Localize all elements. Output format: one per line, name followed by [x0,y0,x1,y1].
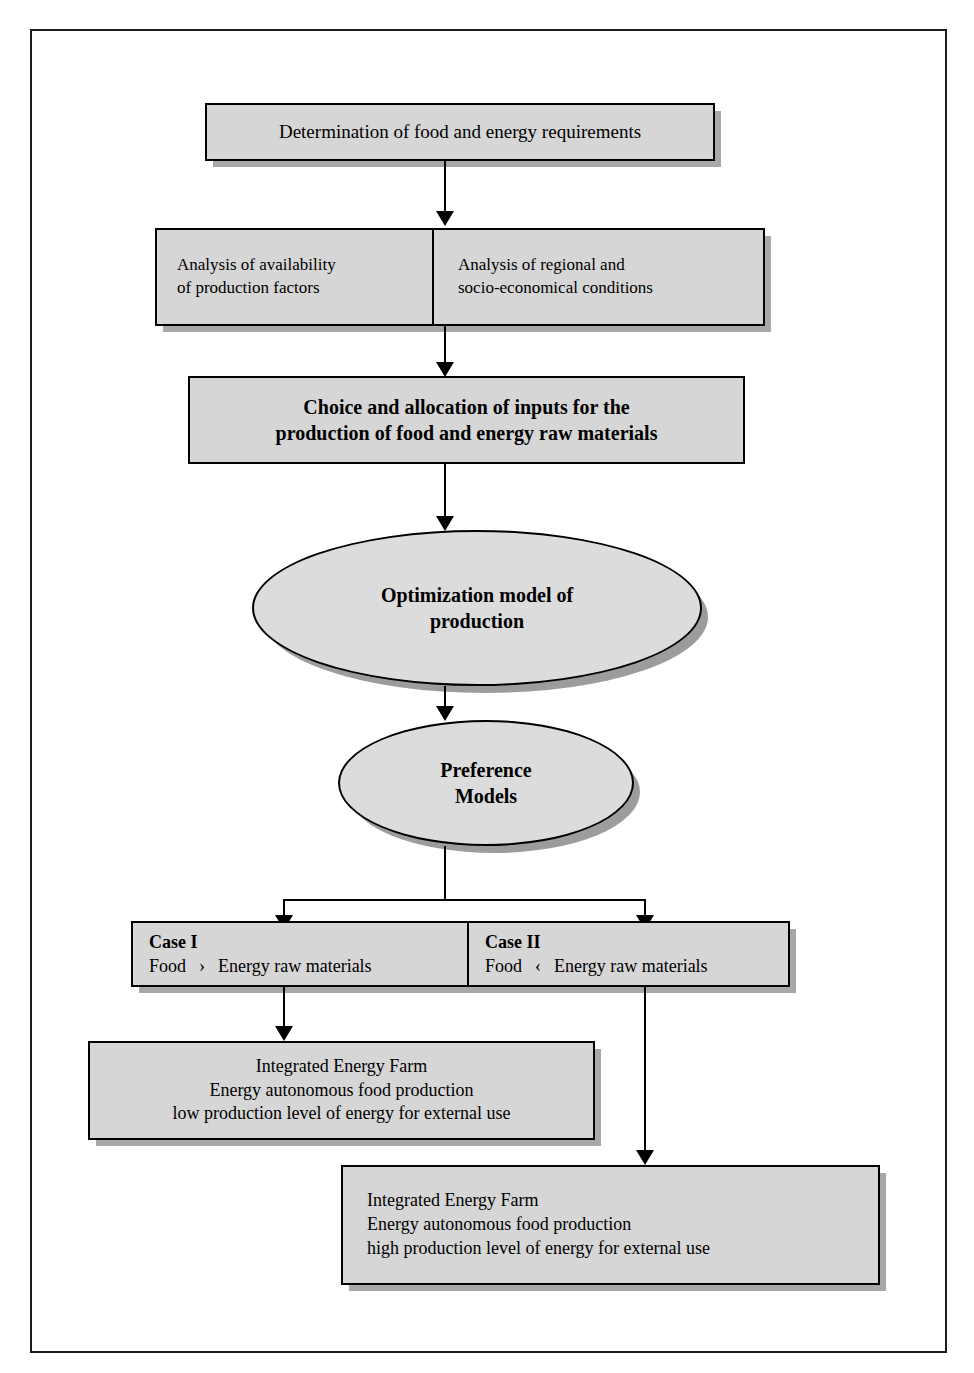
connector-preference-stem [444,846,446,900]
connector-preference-branch-bar [283,899,646,901]
farm-low-line-2: Energy autonomous food production [112,1079,571,1103]
arrowhead-to-farm-high-icon [636,1150,654,1165]
analysis-regional-line-1: Analysis of regional and [458,254,763,277]
arrowhead-to-farm-low-icon [275,1026,293,1041]
node-analysis-regional-conditions: Analysis of regional and socio-economica… [432,230,763,324]
node-farm-high: Integrated Energy Farm Energy autonomous… [341,1165,880,1285]
node-analysis-split-row: Analysis of availability of production f… [155,228,765,326]
node-preference-models: Preference Models [338,720,634,846]
preference-models-line-1: Preference [440,757,531,783]
case-two-operator-icon: ‹ [535,956,541,976]
preference-models-line-2: Models [455,783,517,809]
connector-case-two-to-farm-high [644,987,646,1162]
node-case-split-row: Case I Food›Energy raw materials Case II… [131,921,790,987]
analysis-regional-line-2: socio-economical conditions [458,277,763,300]
node-farm-low: Integrated Energy Farm Energy autonomous… [88,1041,595,1140]
case-one-operator-icon: › [199,956,205,976]
connector-choice-to-optimization [444,464,446,524]
case-two-heading: Case II [485,930,788,954]
case-two-left-term: Food [485,956,522,976]
analysis-factors-line-2: of production factors [177,277,432,300]
arrowhead-to-optimization-icon [436,516,454,531]
case-one-heading: Case I [149,930,467,954]
node-requirements-label: Determination of food and energy require… [229,119,691,144]
choice-allocation-line-1: Choice and allocation of inputs for the [212,394,721,420]
case-one-relation: Food›Energy raw materials [149,954,467,978]
diagram-canvas: Determination of food and energy require… [0,0,974,1373]
node-choice-allocation: Choice and allocation of inputs for the … [188,376,745,464]
choice-allocation-line-2: production of food and energy raw materi… [212,420,721,446]
optimization-model-line-1: Optimization model of [381,582,573,608]
analysis-factors-line-1: Analysis of availability [177,254,432,277]
arrowhead-to-preference-icon [436,706,454,721]
arrowhead-to-choice-icon [436,362,454,377]
node-analysis-production-factors: Analysis of availability of production f… [157,230,432,324]
node-case-two: Case II Food‹Energy raw materials [467,923,788,985]
case-two-right-term: Energy raw materials [554,956,708,976]
arrowhead-to-analysis-icon [436,211,454,226]
case-one-right-term: Energy raw materials [218,956,372,976]
farm-high-line-2: Energy autonomous food production [367,1213,878,1237]
farm-high-line-1: Integrated Energy Farm [367,1189,878,1213]
connector-requirements-to-analysis [444,161,446,211]
farm-low-line-3: low production level of energy for exter… [112,1102,571,1126]
farm-high-line-3: high production level of energy for exte… [367,1237,878,1261]
case-one-left-term: Food [149,956,186,976]
optimization-model-line-2: production [430,608,524,634]
case-two-relation: Food‹Energy raw materials [485,954,788,978]
node-optimization-model: Optimization model of production [252,530,702,686]
node-requirements: Determination of food and energy require… [205,103,715,161]
node-case-one: Case I Food›Energy raw materials [133,923,467,985]
farm-low-line-1: Integrated Energy Farm [112,1055,571,1079]
